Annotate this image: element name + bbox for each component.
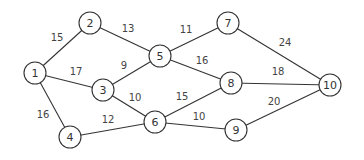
node-10: 10 (319, 74, 341, 96)
node-1: 1 (24, 62, 46, 84)
node-label: 5 (157, 50, 164, 63)
node-5: 5 (149, 45, 171, 67)
edge-weight-label: 17 (70, 66, 83, 77)
edge-weight-label: 11 (180, 24, 193, 35)
node-label: 4 (67, 131, 74, 144)
edge-9-10 (236, 85, 330, 130)
node-label: 9 (233, 124, 240, 137)
node-9: 9 (225, 119, 247, 141)
node-label: 1 (32, 67, 39, 80)
edge-weight-label: 15 (176, 91, 189, 102)
edge-weight-label: 10 (193, 111, 206, 122)
edge-weight-label: 16 (37, 109, 50, 120)
edge-weight-label: 13 (122, 23, 135, 34)
node-7: 7 (217, 12, 239, 34)
edge-8-10 (231, 83, 330, 85)
node-8: 8 (220, 72, 242, 94)
weighted-graph-diagram: 151716139101211161510241820 12345678910 (0, 0, 364, 160)
edge-weight-label: 10 (129, 92, 142, 103)
edge-weight-label: 18 (272, 66, 285, 77)
node-label: 10 (323, 79, 337, 92)
edge-weight-label: 24 (279, 37, 292, 48)
node-label: 3 (100, 84, 107, 97)
node-2: 2 (79, 12, 101, 34)
node-label: 6 (152, 116, 159, 129)
node-label: 8 (228, 77, 235, 90)
edge-weight-label: 16 (196, 55, 209, 66)
node-3: 3 (92, 79, 114, 101)
node-label: 2 (87, 17, 94, 30)
edge-weight-label: 9 (121, 60, 127, 71)
node-4: 4 (59, 126, 81, 148)
edge-weight-label: 20 (268, 96, 281, 107)
edge-weight-label: 12 (102, 114, 115, 125)
node-label: 7 (225, 17, 232, 30)
node-6: 6 (144, 111, 166, 133)
edge-weight-label: 15 (51, 32, 64, 43)
edge-6-9 (155, 122, 236, 130)
